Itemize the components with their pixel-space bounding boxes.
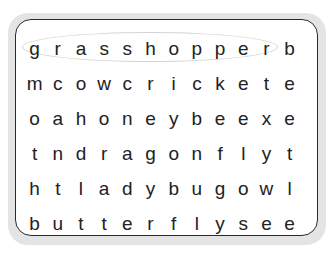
letter-cell[interactable]: e [232, 39, 255, 58]
letter-cell[interactable]: a [69, 39, 92, 58]
letter-cell[interactable]: l [278, 179, 301, 198]
letter-cell[interactable]: h [23, 179, 46, 198]
letter-cell[interactable]: e [209, 109, 232, 128]
letter-cell[interactable]: o [232, 179, 255, 198]
letter-cell[interactable]: n [46, 144, 69, 163]
letter-cell[interactable]: o [23, 109, 46, 128]
letter-cell[interactable]: w [255, 179, 278, 198]
letter-cell[interactable]: r [93, 144, 116, 163]
letter-cell[interactable]: i [162, 74, 185, 93]
grid-row: butterflysee [23, 206, 303, 241]
letter-cell[interactable]: y [139, 179, 162, 198]
letter-cell[interactable]: o [162, 144, 185, 163]
letter-cell[interactable]: y [162, 109, 185, 128]
letter-cell[interactable]: b [185, 109, 208, 128]
letter-cell[interactable]: h [69, 109, 92, 128]
grid-row: htladybugowl [23, 171, 303, 206]
letter-cell[interactable]: t [23, 144, 46, 163]
letter-cell[interactable]: r [139, 74, 162, 93]
letter-cell[interactable]: b [23, 214, 46, 233]
letter-cell[interactable]: e [232, 74, 255, 93]
letter-cell[interactable]: s [93, 39, 116, 58]
letter-cell[interactable]: e [278, 214, 301, 233]
letter-cell[interactable]: u [46, 214, 69, 233]
letter-cell[interactable]: d [69, 144, 92, 163]
letter-cell[interactable]: m [23, 74, 46, 93]
letter-cell[interactable]: y [209, 214, 232, 233]
letter-cell[interactable]: l [69, 179, 92, 198]
letter-cell[interactable]: t [46, 179, 69, 198]
letter-cell[interactable]: s [232, 214, 255, 233]
letter-cell[interactable]: y [255, 144, 278, 163]
letter-cell[interactable]: r [139, 214, 162, 233]
letter-cell[interactable]: p [185, 39, 208, 58]
letter-cell[interactable]: t [278, 144, 301, 163]
letter-cell[interactable]: a [93, 179, 116, 198]
letter-cell[interactable]: b [278, 39, 301, 58]
letter-cell[interactable]: w [93, 74, 116, 93]
letter-cell[interactable]: f [209, 144, 232, 163]
letter-cell[interactable]: e [255, 214, 278, 233]
letter-cell[interactable]: o [69, 74, 92, 93]
letter-cell[interactable]: e [278, 74, 301, 93]
letter-cell[interactable]: o [162, 39, 185, 58]
letter-cell[interactable]: a [46, 109, 69, 128]
letter-cell[interactable]: g [209, 179, 232, 198]
letter-cell[interactable]: o [93, 109, 116, 128]
letter-cell[interactable]: d [116, 179, 139, 198]
letter-cell[interactable]: g [139, 144, 162, 163]
letter-cell[interactable]: c [116, 74, 139, 93]
letter-cell[interactable]: n [116, 109, 139, 128]
letter-cell[interactable]: h [139, 39, 162, 58]
letter-cell[interactable]: e [232, 109, 255, 128]
letter-cell[interactable]: l [232, 144, 255, 163]
letter-cell[interactable]: t [93, 214, 116, 233]
grid-row: mcowcrickete [23, 66, 303, 101]
letter-grid: grasshopperbmcowcricketeoahoneybeexetndr… [23, 31, 303, 241]
letter-cell[interactable]: e [278, 109, 301, 128]
grid-row: tndragonflyt [23, 136, 303, 171]
letter-cell[interactable]: c [185, 74, 208, 93]
letter-cell[interactable]: u [185, 179, 208, 198]
letter-cell[interactable]: t [255, 74, 278, 93]
letter-cell[interactable]: n [185, 144, 208, 163]
letter-cell[interactable]: a [116, 144, 139, 163]
letter-cell[interactable]: g [23, 39, 46, 58]
letter-cell[interactable]: x [255, 109, 278, 128]
letter-cell[interactable]: p [209, 39, 232, 58]
letter-cell[interactable]: f [162, 214, 185, 233]
letter-cell[interactable]: t [69, 214, 92, 233]
letter-cell[interactable]: r [255, 39, 278, 58]
letter-cell[interactable]: r [46, 39, 69, 58]
letter-cell[interactable]: s [116, 39, 139, 58]
letter-cell[interactable]: l [185, 214, 208, 233]
letter-cell[interactable]: k [209, 74, 232, 93]
grid-row: oahoneybeexe [23, 101, 303, 136]
grid-row: grasshopperb [23, 31, 303, 66]
letter-cell[interactable]: b [162, 179, 185, 198]
letter-cell[interactable]: e [116, 214, 139, 233]
letter-cell[interactable]: c [46, 74, 69, 93]
letter-cell[interactable]: e [139, 109, 162, 128]
